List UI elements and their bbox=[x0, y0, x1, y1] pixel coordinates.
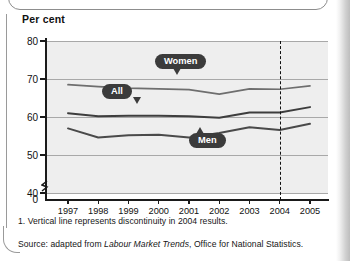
callout-all-label: All bbox=[111, 86, 123, 96]
x-tick-label-2005: 2005 bbox=[300, 206, 320, 216]
gridline-40 bbox=[46, 193, 328, 194]
x-tick-mark-1998 bbox=[98, 199, 99, 204]
x-tick-mark-1997 bbox=[67, 199, 68, 204]
x-tick-label-2001: 2001 bbox=[179, 206, 199, 216]
page-edge-left-line bbox=[6, 14, 7, 228]
callout-men-label: Men bbox=[198, 135, 217, 145]
page-box-border bbox=[8, 0, 328, 10]
callout-all-pointer bbox=[133, 97, 141, 104]
y-tick-label-70: 70 bbox=[12, 74, 38, 85]
callout-women-label: Women bbox=[164, 56, 197, 66]
source-suffix: , Office for National Statistics. bbox=[189, 239, 303, 249]
x-tick-mark-2001 bbox=[188, 199, 189, 204]
x-tick-label-2003: 2003 bbox=[239, 206, 259, 216]
x-tick-label-1997: 1997 bbox=[58, 206, 78, 216]
source-publication: Labour Market Trends bbox=[104, 239, 189, 249]
x-axis bbox=[45, 199, 329, 201]
callout-women-pointer bbox=[173, 68, 181, 75]
callout-women: Women bbox=[155, 54, 206, 69]
x-tick-mark-2000 bbox=[158, 199, 159, 204]
y-tick-label-60: 60 bbox=[12, 112, 38, 123]
source-prefix: Source: adapted from bbox=[18, 239, 104, 249]
axis-break-icon bbox=[41, 180, 51, 193]
y-tick-mark-50 bbox=[40, 154, 46, 155]
x-tick-label-1999: 1999 bbox=[118, 206, 138, 216]
y-tick-label-0: 0 bbox=[12, 194, 38, 205]
page-edge-shadow bbox=[336, 0, 350, 261]
series-line-men bbox=[68, 124, 310, 138]
y-tick-label-80: 80 bbox=[12, 36, 38, 47]
source-text: Source: adapted from Labour Market Trend… bbox=[18, 239, 303, 249]
y-tick-mark-80 bbox=[40, 40, 46, 41]
y-tick-mark-70 bbox=[40, 78, 46, 79]
chart-page: Per cent 80706050400 1997199819992000200… bbox=[0, 0, 350, 261]
x-tick-label-2002: 2002 bbox=[209, 206, 229, 216]
callout-men: Men bbox=[189, 133, 226, 148]
series-line-all bbox=[68, 107, 310, 118]
callout-all: All bbox=[102, 84, 132, 99]
x-tick-label-2000: 2000 bbox=[149, 206, 169, 216]
y-axis bbox=[45, 38, 47, 200]
x-tick-label-1998: 1998 bbox=[88, 206, 108, 216]
x-tick-mark-2002 bbox=[219, 199, 220, 204]
x-tick-label-2004: 2004 bbox=[270, 206, 290, 216]
x-tick-mark-1999 bbox=[128, 199, 129, 204]
footnote-text: 1. Vertical line represents discontinuit… bbox=[18, 216, 228, 226]
discontinuity-line bbox=[280, 41, 281, 200]
axis-title-per-cent: Per cent bbox=[22, 13, 65, 25]
y-tick-mark-60 bbox=[40, 116, 46, 117]
y-tick-label-50: 50 bbox=[12, 150, 38, 161]
x-tick-mark-2005 bbox=[309, 199, 310, 204]
y-tick-mark-40 bbox=[40, 192, 46, 193]
x-tick-mark-2003 bbox=[249, 199, 250, 204]
